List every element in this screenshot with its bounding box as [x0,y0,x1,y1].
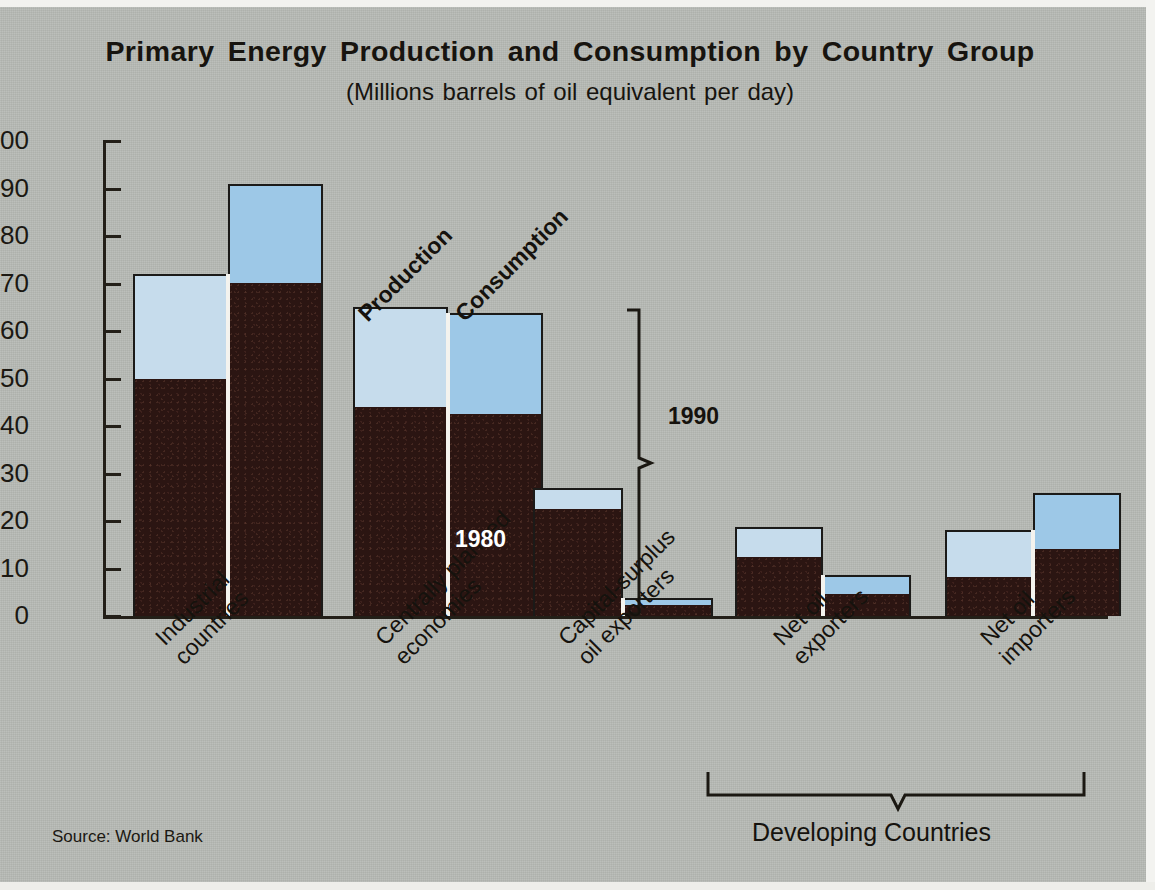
y-tick-label: 40 [0,412,29,438]
y-tick-mark [103,425,121,428]
y-tick-label: 50 [0,365,29,391]
y-tick-label: 80 [0,222,29,248]
bar-segment-1980 [230,283,321,616]
bar-segment-1990 [535,490,621,511]
bar-segment-1990 [135,276,226,381]
y-tick-label: 30 [0,460,29,486]
scan-edge-right [1146,0,1155,890]
chart-figure: Primary Energy Production and Consumptio… [0,0,1155,890]
source-note: Source: World Bank [52,827,203,847]
y-tick-label: 0 [0,602,29,628]
y-tick-label: 70 [0,270,29,296]
y-tick-mark [103,330,121,333]
y-tick-mark [103,568,121,571]
y-tick-mark [103,520,121,523]
year-label-1990: 1990 [668,403,719,430]
y-tick-label: 90 [0,175,29,201]
year-label-1980: 1980 [455,526,506,553]
y-tick-mark [103,615,121,618]
y-tick-label: 20 [0,507,29,533]
developing-countries-label: Developing Countries [752,818,991,847]
scan-edge-top [0,0,1155,7]
bar-segment-1990 [947,532,1031,579]
chart-subtitle: (Millions barrels of oil equivalent per … [0,78,1140,106]
bar-segment-1990 [1035,495,1119,551]
bar-segment-1990 [230,186,321,285]
scan-edge-bottom [0,882,1155,890]
y-tick-mark [103,188,121,191]
y-tick-label: 100 [0,127,29,153]
y-tick-mark [103,283,121,286]
bar-production [133,274,228,616]
bar-segment-1990 [737,529,821,558]
bar-segment-1990 [450,315,541,416]
y-tick-mark [103,235,121,238]
chart-title: Primary Energy Production and Consumptio… [0,35,1140,68]
plot-area: 1009080706050403020100 [103,141,1108,616]
y-tick-label: 10 [0,555,29,581]
developing-countries-bracket-icon [705,769,1087,805]
y-tick-mark [103,140,121,143]
y-tick-label: 60 [0,317,29,343]
bar-consumption [228,184,323,616]
y-tick-mark [103,473,121,476]
bar-pair-divider [226,274,230,616]
y-tick-mark [103,378,121,381]
